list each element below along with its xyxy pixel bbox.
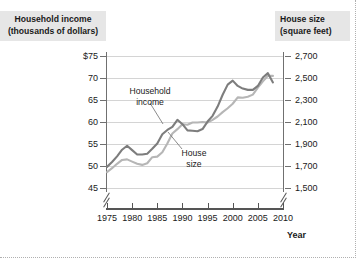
x-axis-tick-label: 2000: [223, 213, 243, 224]
gridline: [107, 144, 283, 145]
left-axis-tick-label: $75: [7, 51, 107, 61]
gridline: [107, 78, 283, 79]
right-axis-tick-label: 2,500: [284, 73, 318, 83]
x-axis-tick-mark: [132, 203, 133, 209]
x-axis-tick-mark: [107, 203, 108, 209]
x-axis-tick-mark: [283, 203, 284, 209]
right-axis-tick-label: 1,900: [284, 139, 318, 149]
house-size-annotation: House size: [172, 148, 216, 170]
x-axis-tick-label: 1990: [172, 213, 192, 224]
right-axis-ticks: 2,7002,5002,3002,1001,9001,7001,500: [284, 0, 356, 258]
x-axis-title: Year: [287, 230, 306, 240]
plot-area: [107, 56, 283, 204]
x-axis-tick-mark: [208, 203, 209, 209]
household-income-annotation-line1: Household: [129, 86, 170, 96]
right-axis-tick-label: 2,300: [284, 95, 318, 105]
x-axis-tick-mark: [233, 203, 234, 209]
x-axis-tick-mark: [258, 203, 259, 209]
house-size-annotation-line1: House: [182, 148, 207, 158]
left-axis-tick-label: 50: [7, 161, 107, 171]
right-axis-tick-label: 1,500: [284, 183, 318, 193]
left-axis-tick-label: 55: [7, 139, 107, 149]
x-axis-tick-label: 1985: [147, 213, 167, 224]
x-axis-tick-label: 1995: [198, 213, 218, 224]
left-axis-tick-label: 65: [7, 95, 107, 105]
chart-figure: Household income (thousands of dollars) …: [0, 0, 356, 258]
right-axis-tick-label: 2,700: [284, 51, 318, 61]
x-axis-tick-mark: [157, 203, 158, 209]
left-axis-tick-label: 45: [7, 183, 107, 193]
x-axis-tick-mark: [182, 203, 183, 209]
household-income-annotation: Household income: [118, 86, 182, 108]
gridline: [107, 56, 283, 57]
left-axis-tick-label: 70: [7, 73, 107, 83]
left-axis-tick-label: 60: [7, 117, 107, 127]
house-size-annotation-line2: size: [186, 159, 201, 169]
x-axis-tick-label: 1975: [97, 213, 117, 224]
household-income-annotation-line2: income: [136, 97, 164, 107]
right-axis-tick-label: 2,100: [284, 117, 318, 127]
x-axis-tick-label: 1980: [122, 213, 142, 224]
gridline: [107, 122, 283, 123]
left-axis-ticks: $75706560555045: [0, 0, 107, 258]
gridline: [107, 188, 283, 189]
x-axis-tick-label: 2005: [248, 213, 268, 224]
x-axis-tick-label: 2010: [273, 213, 293, 224]
right-axis-tick-label: 1,700: [284, 161, 318, 171]
